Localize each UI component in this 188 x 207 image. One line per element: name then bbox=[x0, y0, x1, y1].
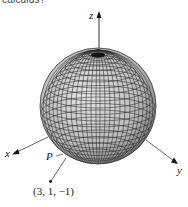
point-coordinates: (3, 1, −1) bbox=[33, 185, 74, 198]
sphere bbox=[40, 48, 156, 166]
z-axis-label: z bbox=[88, 9, 94, 21]
external-point-dot bbox=[49, 180, 52, 183]
y-axis-label: y bbox=[176, 164, 182, 176]
z-axis: z bbox=[88, 9, 102, 48]
point-p: P (3, 1, −1) bbox=[33, 150, 74, 198]
sphere-diagram: z bbox=[0, 0, 188, 207]
north-pole-cap bbox=[91, 53, 105, 58]
x-axis: x bbox=[4, 137, 48, 159]
y-axis: y bbox=[146, 140, 182, 176]
x-arrow-icon bbox=[12, 149, 20, 155]
point-p-label: P bbox=[45, 150, 53, 162]
x-axis-label: x bbox=[4, 147, 10, 159]
z-arrow-icon bbox=[97, 11, 102, 18]
